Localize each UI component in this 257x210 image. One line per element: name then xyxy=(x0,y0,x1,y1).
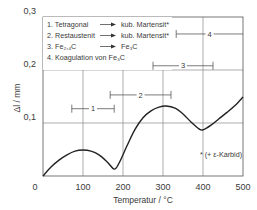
legend-entry-from: 4. Koagulation von Fe₃C xyxy=(47,53,125,62)
range-label: 2 xyxy=(139,91,143,100)
legend-entry-from: 2. Restaustenit xyxy=(47,31,95,40)
legend-entry-to: kub. Martensit* xyxy=(121,20,169,29)
range-label: 1 xyxy=(91,104,95,113)
x-axis-label: Temperatur / °C xyxy=(113,195,173,205)
legend-entry-from: 1. Tetragonal xyxy=(47,20,89,29)
x-tick-label: 200 xyxy=(115,182,130,192)
y-tick-label: 0,3 xyxy=(23,6,36,16)
x-axis-ticks: 0100200300400500 xyxy=(32,182,250,192)
x-tick-label: 100 xyxy=(75,182,90,192)
legend-entry-from: 3. Fe₂,₄C xyxy=(47,42,76,51)
y-tick-label: 0,2 xyxy=(23,59,36,69)
annotations: * (+ ε-Karbid) xyxy=(200,150,242,159)
range-label: 3 xyxy=(181,61,185,70)
x-tick-label: 400 xyxy=(195,182,210,192)
footnote-annotation: * (+ ε-Karbid) xyxy=(200,150,242,159)
y-axis-ticks: 0,10,20,3 xyxy=(23,6,36,122)
x-tick-label: 300 xyxy=(155,182,170,192)
range-label: 4 xyxy=(208,30,212,39)
x-tick-label: 500 xyxy=(235,182,250,192)
legend-entry-to: Fe₃C xyxy=(121,42,138,51)
dilatometer-chart: 1. Tetragonalkub. Martensit*2. Restauste… xyxy=(0,0,257,210)
x-tick-label: 0 xyxy=(32,182,37,192)
y-axis-label: Δl / mm xyxy=(12,84,22,113)
legend-entry-to: kub. Martensit* xyxy=(121,31,169,40)
y-tick-label: 0,1 xyxy=(23,112,36,122)
